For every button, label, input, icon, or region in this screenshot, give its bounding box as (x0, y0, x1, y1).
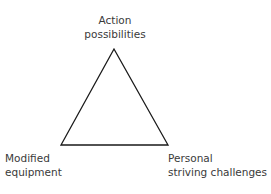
triangle-shape (61, 49, 168, 145)
node-modified-equipment: Modified equipment (5, 151, 62, 179)
node-label-line: Action (70, 13, 160, 27)
node-label-line: Personal (168, 151, 267, 165)
node-label-line: Modified (5, 151, 62, 165)
node-action-possibilities: Action possibilities (70, 13, 160, 41)
node-label-line: possibilities (70, 27, 160, 41)
node-label-line: striving challenges (168, 165, 267, 179)
node-personal-striving-challenges: Personal striving challenges (168, 151, 267, 179)
node-label-line: equipment (5, 165, 62, 179)
